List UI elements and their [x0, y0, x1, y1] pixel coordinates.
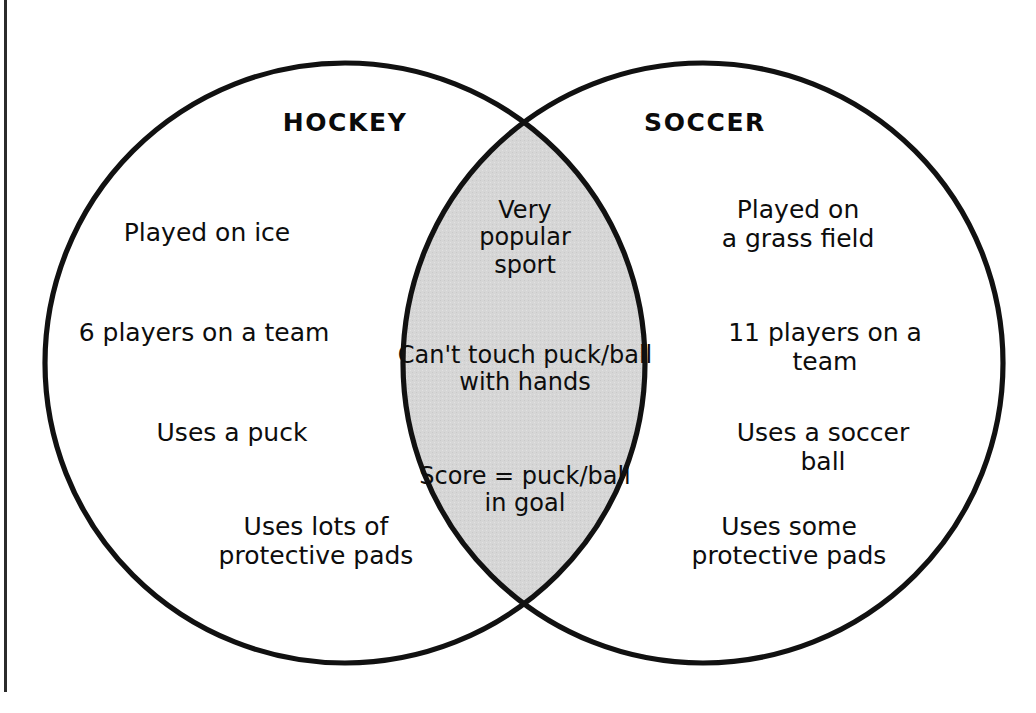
soccer-item: Uses a soccer ball — [717, 418, 930, 476]
soccer-item: Played on a grass field — [722, 195, 875, 253]
venn-label-layer: HOCKEY SOCCER Played on ice 6 players on… — [0, 0, 1036, 713]
shared-item: Very popular sport — [479, 197, 571, 279]
set-title-hockey: HOCKEY — [283, 108, 408, 137]
hockey-item: 6 players on a team — [79, 318, 330, 347]
shared-item: Score = puck/ball in goal — [419, 463, 631, 518]
venn-diagram-figure: HOCKEY SOCCER Played on ice 6 players on… — [0, 0, 1036, 713]
shared-item: Can't touch puck/ball with hands — [398, 342, 653, 397]
hockey-item: Uses lots of protective pads — [219, 512, 414, 570]
set-title-soccer: SOCCER — [644, 108, 766, 137]
hockey-item: Uses a puck — [157, 418, 308, 447]
hockey-item: Played on ice — [124, 218, 291, 247]
soccer-item: Uses some protective pads — [692, 512, 887, 570]
soccer-item: 11 players on a team — [720, 318, 931, 376]
